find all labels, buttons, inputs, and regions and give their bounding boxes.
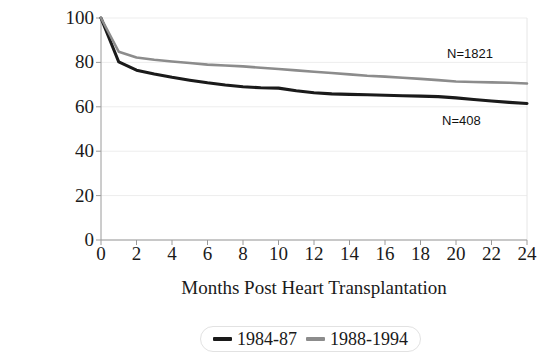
legend-line-swatch-icon xyxy=(306,337,325,341)
x-tick-label: 2 xyxy=(117,244,157,263)
legend-line-swatch-icon xyxy=(213,337,232,341)
y-tick-label: 100 xyxy=(48,8,94,27)
x-tick-label: 16 xyxy=(365,244,405,263)
y-axis-tick-labels: 100806040200 xyxy=(42,0,94,360)
x-tick-label: 4 xyxy=(152,244,192,263)
x-tick-label: 24 xyxy=(507,244,547,263)
y-tick-label: 80 xyxy=(48,52,94,71)
x-tick-label: 0 xyxy=(81,244,121,263)
x-tick-label: 10 xyxy=(259,244,299,263)
legend-item-label: 1984-87 xyxy=(237,330,297,348)
annotation-n-1988-1994: N=1821 xyxy=(447,46,493,61)
x-tick-label: 12 xyxy=(294,244,334,263)
legend-item[interactable]: 1984-87 xyxy=(213,330,297,348)
x-tick-label: 22 xyxy=(472,244,512,263)
x-tick-label: 20 xyxy=(436,244,476,263)
legend-item-label: 1988-1994 xyxy=(330,330,408,348)
x-tick-label: 8 xyxy=(223,244,263,263)
survival-chart-figure: Survival (%) 100806040200 02468101214161… xyxy=(0,0,549,360)
y-tick-label: 60 xyxy=(48,97,94,116)
legend-item[interactable]: 1988-1994 xyxy=(306,330,408,348)
x-tick-label: 6 xyxy=(188,244,228,263)
x-tick-label: 14 xyxy=(330,244,370,263)
y-tick-label: 20 xyxy=(48,186,94,205)
x-axis-title: Months Post Heart Transplantation xyxy=(101,277,527,299)
x-tick-label: 18 xyxy=(401,244,441,263)
chart-legend: 1984-871988-1994 xyxy=(200,326,421,352)
annotation-n-1984-87: N=408 xyxy=(442,113,481,128)
y-tick-label: 40 xyxy=(48,141,94,160)
